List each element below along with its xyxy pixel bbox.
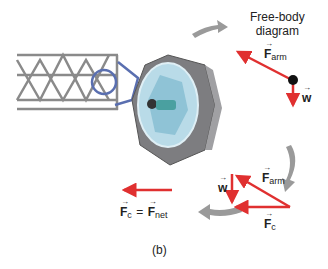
- f-c-symbol: F: [264, 217, 271, 231]
- f-arm-sub: arm: [271, 52, 287, 62]
- f-c-sub: c: [271, 222, 276, 232]
- title-line-2: diagram: [250, 24, 305, 38]
- label-w-triangle: w: [218, 178, 227, 196]
- eq-lhs-sub: c: [127, 210, 132, 220]
- diagram-canvas: [0, 0, 328, 269]
- equation-label: Fc = Fnet: [120, 202, 168, 220]
- label-f-arm: Farm: [264, 44, 287, 62]
- f-arm-tri-symbol: F: [262, 171, 269, 185]
- caption: (b): [152, 243, 167, 257]
- label-f-arm-triangle: Farm: [262, 168, 285, 186]
- w-symbol: w: [302, 91, 311, 105]
- eq-lhs: F: [120, 205, 127, 219]
- free-body-title: Free-body diagram: [250, 10, 305, 38]
- truss-arm: [17, 55, 118, 110]
- w-tri-symbol: w: [218, 181, 227, 195]
- capsule: [132, 55, 222, 165]
- title-line-1: Free-body: [250, 10, 305, 24]
- eq-rhs-sub: net: [155, 210, 168, 220]
- label-f-c: Fc: [264, 214, 276, 232]
- label-w: w: [302, 88, 311, 106]
- f-arm-tri-sub: arm: [269, 176, 285, 186]
- eq-rhs: F: [148, 205, 155, 219]
- f-arm-symbol: F: [264, 47, 271, 61]
- eq-sign: =: [136, 205, 143, 219]
- object-dot: [288, 75, 298, 85]
